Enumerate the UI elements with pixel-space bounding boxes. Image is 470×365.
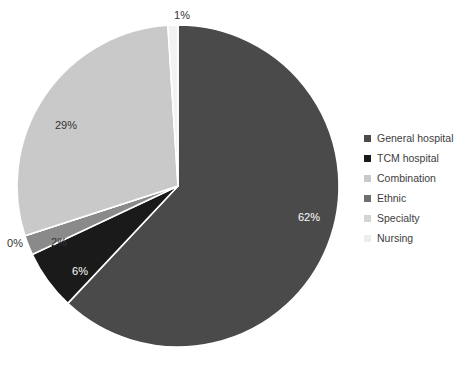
- legend-item-label: Ethnic: [377, 193, 406, 204]
- legend-item[interactable]: Nursing: [364, 230, 468, 247]
- pie-slice-value-label: 1%: [174, 9, 190, 21]
- chart-legend: General hospitalTCM hospitalCombinationE…: [364, 130, 468, 250]
- legend-swatch-icon: [364, 155, 371, 162]
- legend-item[interactable]: Combination: [364, 170, 468, 187]
- pie-slice-value-label: 2%: [51, 236, 67, 248]
- legend-item-label: Nursing: [377, 233, 413, 244]
- legend-swatch-icon: [364, 235, 371, 242]
- legend-item[interactable]: Specialty: [364, 210, 468, 227]
- pie-slice-value-label: 6%: [72, 265, 88, 277]
- legend-item[interactable]: Ethnic: [364, 190, 468, 207]
- legend-swatch-icon: [364, 175, 371, 182]
- legend-item-label: TCM hospital: [377, 153, 439, 164]
- legend-item-label: Specialty: [377, 213, 420, 224]
- legend-item[interactable]: General hospital: [364, 130, 468, 147]
- pie-slice-value-label: 29%: [55, 119, 77, 131]
- pie-chart-figure: 62%6%2%0%29%1% General hospitalTCM hospi…: [0, 0, 470, 365]
- pie-slice-value-label: 0%: [7, 237, 23, 249]
- pie-plot-area: 62%6%2%0%29%1%: [0, 0, 352, 365]
- pie-slices-group: [17, 25, 339, 347]
- legend-swatch-icon: [364, 215, 371, 222]
- legend-item-label: Combination: [377, 173, 436, 184]
- legend-item-label: General hospital: [377, 133, 453, 144]
- pie-slice-value-label: 62%: [298, 211, 320, 223]
- pie-svg: 62%6%2%0%29%1%: [0, 0, 352, 365]
- legend-swatch-icon: [364, 135, 371, 142]
- legend-item[interactable]: TCM hospital: [364, 150, 468, 167]
- legend-swatch-icon: [364, 195, 371, 202]
